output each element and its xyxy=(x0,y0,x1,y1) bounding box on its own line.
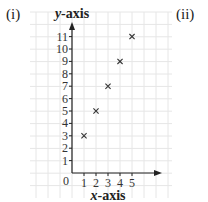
x-tick-label: 1 xyxy=(81,176,87,190)
x-axis-arrow-icon xyxy=(154,170,162,176)
x-axis-label: x-axis xyxy=(90,188,127,202)
y-tick-label: 1 xyxy=(62,154,68,168)
scatter-chart: 1234567891011123450y-axisx-axis xyxy=(0,0,208,202)
y-tick-label: 2 xyxy=(62,141,68,155)
y-tick-label: 5 xyxy=(62,104,68,118)
y-tick-label: 3 xyxy=(62,129,68,143)
y-tick-label: 6 xyxy=(62,92,68,106)
y-axis-label: y-axis xyxy=(53,6,90,21)
y-tick-label: 11 xyxy=(56,30,68,44)
y-tick-label: 4 xyxy=(62,116,68,130)
y-tick-label: 10 xyxy=(56,42,68,56)
y-axis-arrow-icon xyxy=(69,22,75,30)
origin-label: 0 xyxy=(63,174,69,188)
y-tick-label: 7 xyxy=(62,79,68,93)
y-tick-label: 9 xyxy=(62,54,68,68)
x-tick-label: 5 xyxy=(129,176,135,190)
y-tick-label: 8 xyxy=(62,67,68,81)
